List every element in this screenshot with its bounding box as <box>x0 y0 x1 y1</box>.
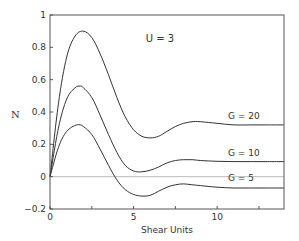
series-label: G = 20 <box>228 111 260 121</box>
y-axis-label: N <box>11 109 20 120</box>
y-tick-label: 0.4 <box>32 107 47 117</box>
x-tick-label: 0 <box>47 212 53 222</box>
y-axis-ticks: −0.200.20.40.60.81 <box>24 10 53 214</box>
y-tick-label: −0.2 <box>24 204 46 214</box>
x-tick-label: 5 <box>131 212 137 222</box>
annotation-label: U = 3 <box>146 33 174 44</box>
chart: 0510 −0.200.20.40.60.81 G = 20G = 10G = … <box>0 0 299 241</box>
y-tick-label: 0 <box>40 172 46 182</box>
x-axis-label: Shear Units <box>141 225 193 235</box>
series-label: G = 5 <box>228 173 254 183</box>
y-tick-label: 0.2 <box>32 139 46 149</box>
series-line <box>50 125 284 197</box>
y-tick-label: 0.6 <box>32 75 47 85</box>
y-tick-label: 0.8 <box>32 42 47 52</box>
x-axis-ticks: 0510 <box>47 206 259 222</box>
series-label: G = 10 <box>228 148 260 158</box>
x-tick-label: 10 <box>211 212 223 222</box>
series-labels: G = 20G = 10G = 5 <box>228 111 260 183</box>
y-tick-label: 1 <box>40 10 46 20</box>
